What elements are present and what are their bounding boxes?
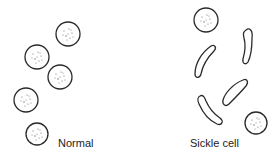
sickle-cell — [195, 45, 215, 77]
normal-cell — [25, 45, 49, 69]
sickle-cell — [198, 95, 222, 124]
normal-label: Normal — [58, 137, 93, 149]
normal-cells-group — [14, 22, 80, 145]
normal-cell — [245, 112, 267, 134]
normal-cell — [194, 8, 218, 32]
sickle-cell-label: Sickle cell — [190, 137, 239, 149]
normal-cell — [48, 65, 72, 89]
sickle-cell — [243, 29, 252, 64]
blood-cell-diagram — [0, 0, 280, 157]
normal-cell-legend — [26, 123, 48, 145]
normal-cell — [14, 88, 38, 112]
sickle-cells-group — [194, 8, 267, 134]
normal-cell — [56, 22, 80, 46]
sickle-cell — [223, 79, 248, 105]
